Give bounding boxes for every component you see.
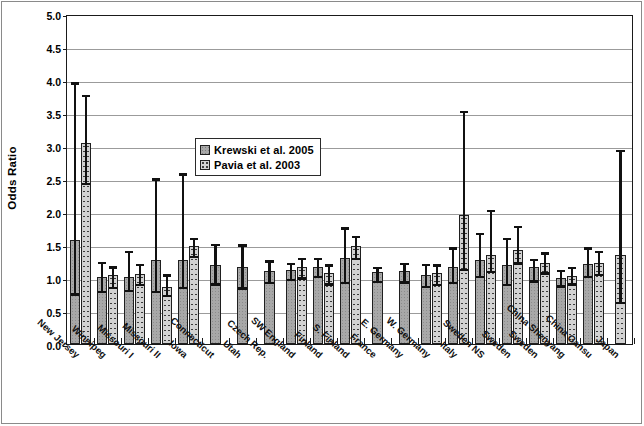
bar-group (229, 16, 256, 344)
bar-group (364, 16, 391, 344)
error-bar-cap-lower (82, 183, 90, 185)
error-bar-cap-upper (211, 244, 219, 246)
chart-figure: Odds Ratio 0.00.51.01.52.02.53.03.54.04.… (0, 0, 644, 426)
error-bar-cap-upper (422, 264, 430, 266)
error-bar-cap-lower (71, 293, 79, 295)
error-bar-line (403, 264, 405, 282)
y-axis-title: Odds Ratio (6, 118, 18, 238)
bar-group (337, 16, 364, 344)
y-axis-tick-label: 4.0 (19, 77, 61, 88)
error-bar-cap-lower (265, 282, 273, 284)
error-bar-line (128, 252, 130, 291)
error-bar-cap-upper (109, 266, 117, 268)
error-bar-line (560, 271, 562, 287)
error-bar-cap-lower (568, 283, 576, 285)
error-bar-cap-lower (422, 286, 430, 288)
error-bar-line (344, 229, 346, 284)
error-bar-cap-upper (314, 258, 322, 260)
bar-group (391, 16, 418, 344)
error-bar-cap-lower (514, 262, 522, 264)
error-bar-cap-upper (298, 258, 306, 260)
error-bar-line (182, 174, 184, 288)
y-axis-tick-label: 5.0 (19, 11, 61, 22)
bar-group (67, 16, 94, 344)
error-bar-cap-upper (460, 111, 468, 113)
error-bar-cap-upper (503, 238, 511, 240)
error-bar-cap-lower (449, 282, 457, 284)
error-bar-line (290, 264, 292, 280)
bar-group (553, 16, 580, 344)
y-axis-tick-label: 2.0 (19, 209, 61, 220)
x-axis-tick-mark (634, 338, 635, 344)
error-bar-line (214, 245, 216, 285)
error-bar-cap-upper (152, 178, 160, 180)
error-bar-cap-lower (341, 282, 349, 284)
bar-group (283, 16, 310, 344)
error-bar-cap-upper (325, 264, 333, 266)
error-bar-cap-upper (238, 244, 246, 246)
error-bar-cap-lower (163, 295, 171, 297)
error-bar-cap-lower (476, 276, 484, 278)
error-bar-cap-upper (341, 227, 349, 229)
bar-group (148, 16, 175, 344)
error-bar-line (436, 265, 438, 285)
bar-group (580, 16, 607, 344)
error-bar-cap-lower (352, 258, 360, 260)
error-bar-cap-lower (584, 276, 592, 278)
error-bar-cap-upper (179, 173, 187, 175)
error-bar-line (452, 248, 454, 283)
error-bar-line (328, 265, 330, 284)
error-bar-line (544, 254, 546, 274)
error-bar-cap-upper (190, 238, 198, 240)
error-bar-cap-upper (568, 267, 576, 269)
error-bar-cap-upper (98, 262, 106, 264)
legend-swatch-series-2 (200, 160, 210, 170)
bar-group (472, 16, 499, 344)
error-bar-cap-upper (265, 260, 273, 262)
error-bar-line (571, 268, 573, 285)
error-bar-cap-upper (557, 270, 565, 272)
legend-item-krewski: Krewski et al. 2005 (200, 142, 314, 157)
error-bar-line (355, 237, 357, 259)
bar-group (499, 16, 526, 344)
error-bar-cap-lower (238, 287, 246, 289)
error-bar-cap-lower (541, 272, 549, 274)
error-bar-line (463, 112, 465, 270)
error-bar-cap-upper (541, 252, 549, 254)
y-axis-tick-label: 2.5 (19, 176, 61, 187)
error-bar-cap-upper (616, 150, 624, 152)
error-bar-cap-upper (595, 251, 603, 253)
error-bar-line (301, 259, 303, 279)
y-axis-tick-label: 3.5 (19, 110, 61, 121)
error-bar-cap-lower (530, 280, 538, 282)
error-bar-line (533, 260, 535, 281)
chart-legend: Krewski et al. 2005 Pavia et al. 2003 (195, 138, 321, 176)
bar-group (175, 16, 202, 344)
error-bar-cap-lower (125, 290, 133, 292)
error-bar-cap-lower (557, 285, 565, 287)
error-bar-cap-upper (373, 267, 381, 269)
y-axis-tick-label: 1.5 (19, 242, 61, 253)
error-bar-cap-lower (400, 281, 408, 283)
error-bar-line (268, 262, 270, 284)
error-bar-line (112, 267, 114, 287)
error-bar-cap-upper (163, 274, 171, 276)
bar-group (607, 16, 634, 344)
bar-group (256, 16, 283, 344)
legend-label-series-2: Pavia et al. 2003 (214, 159, 300, 171)
error-bar-cap-lower (211, 283, 219, 285)
error-bar-cap-upper (514, 226, 522, 228)
error-bar-cap-lower (190, 256, 198, 258)
error-bar-line (74, 83, 76, 294)
y-axis-tick-label: 4.5 (19, 44, 61, 55)
error-bar-cap-upper (487, 210, 495, 212)
error-bar-line (479, 234, 481, 277)
error-bar-line (517, 227, 519, 263)
error-bar-line (241, 246, 243, 289)
error-bar-cap-lower (325, 283, 333, 285)
bar-group (121, 16, 148, 344)
bar-group (94, 16, 121, 344)
error-bar-cap-lower (460, 269, 468, 271)
error-bar-cap-lower (109, 287, 117, 289)
error-bar-cap-upper (530, 259, 538, 261)
